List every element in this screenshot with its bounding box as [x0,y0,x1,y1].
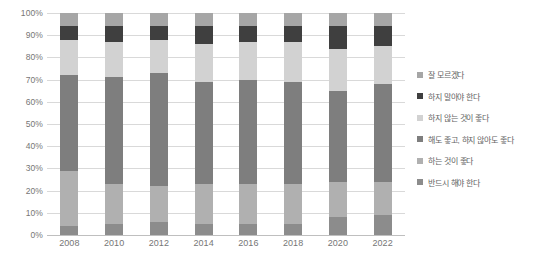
bar-segment[interactable] [195,44,213,82]
bar-segment[interactable] [60,26,78,39]
legend-item-label: 하지 않는 것이 좋다 [428,112,489,123]
bar-segment[interactable] [374,26,392,46]
bar-segment[interactable] [374,182,392,215]
gridline-0 [47,235,405,236]
bar-segment[interactable] [284,13,302,26]
x-axis-tick-2018: 2018 [283,238,303,248]
bar-segment[interactable] [150,26,168,39]
bar-segment[interactable] [374,84,392,182]
stacked-bar-chart: 0%10%20%30%40%50%60%70%80%90%100% 200820… [0,0,536,272]
legend-item-label: 반드시 해야 한다 [428,177,480,188]
y-axis-tick-90: 90% [0,30,43,40]
x-axis-tick-2020: 2020 [328,238,348,248]
bar-segment[interactable] [239,13,257,26]
y-axis-tick-50: 50% [0,119,43,129]
bar-segment[interactable] [284,184,302,224]
bar-segment[interactable] [60,40,78,76]
bar-segment[interactable] [60,13,78,26]
y-axis-tick-100: 100% [0,8,43,18]
x-axis-tick-2010: 2010 [104,238,124,248]
legend-swatch-icon [417,115,423,121]
bar-segment[interactable] [284,82,302,184]
bar-segment[interactable] [150,186,168,222]
bar-column-2016[interactable] [239,13,257,235]
bar-column-2014[interactable] [195,13,213,235]
bars-layer [47,13,405,235]
bar-segment[interactable] [374,46,392,84]
bar-column-2018[interactable] [284,13,302,235]
bar-segment[interactable] [329,49,347,91]
legend-item[interactable]: 잘 모르겠다 [417,64,536,86]
bar-segment[interactable] [60,226,78,235]
legend-swatch-icon [417,93,423,99]
y-axis-tick-80: 80% [0,52,43,62]
legend-swatch-icon [417,158,423,164]
bar-column-2022[interactable] [374,13,392,235]
legend-item-label: 하는 것이 좋다 [428,155,473,166]
bar-segment[interactable] [374,13,392,26]
legend-swatch-icon [417,179,423,185]
bar-segment[interactable] [239,26,257,42]
bar-column-2010[interactable] [105,13,123,235]
bar-segment[interactable] [239,224,257,235]
y-axis-tick-labels: 0%10%20%30%40%50%60%70%80%90%100% [0,13,43,235]
y-axis-tick-30: 30% [0,163,43,173]
y-axis-tick-20: 20% [0,186,43,196]
bar-segment[interactable] [239,42,257,80]
legend-item-label: 해도 좋고, 하지 않아도 좋다 [428,134,514,145]
y-axis-tick-70: 70% [0,75,43,85]
legend-item[interactable]: 하지 말아야 한다 [417,86,536,108]
legend-item[interactable]: 하지 않는 것이 좋다 [417,107,536,129]
bar-segment[interactable] [105,13,123,26]
y-axis-tick-10: 10% [0,208,43,218]
bar-segment[interactable] [239,184,257,224]
bar-segment[interactable] [195,184,213,224]
bar-segment[interactable] [150,13,168,26]
bar-segment[interactable] [284,26,302,42]
legend-item[interactable]: 하는 것이 좋다 [417,150,536,172]
bar-segment[interactable] [284,42,302,82]
bar-segment[interactable] [60,75,78,170]
bar-segment[interactable] [195,13,213,26]
y-axis-tick-0: 0% [0,230,43,240]
bar-segment[interactable] [329,91,347,182]
bar-segment[interactable] [195,26,213,44]
bar-segment[interactable] [105,224,123,235]
legend-swatch-icon [417,72,423,78]
plot-area [47,13,405,235]
x-axis-tick-2008: 2008 [59,238,79,248]
legend-item[interactable]: 반드시 해야 한다 [417,172,536,194]
bar-segment[interactable] [105,77,123,184]
legend-swatch-icon [417,136,423,142]
bar-segment[interactable] [329,217,347,235]
x-axis-tick-2022: 2022 [373,238,393,248]
x-axis-tick-2014: 2014 [194,238,214,248]
bar-segment[interactable] [150,73,168,186]
bar-segment[interactable] [329,182,347,218]
bar-segment[interactable] [284,224,302,235]
bar-segment[interactable] [329,26,347,48]
legend-item-label: 잘 모르겠다 [428,69,464,80]
bar-segment[interactable] [374,215,392,235]
bar-column-2008[interactable] [60,13,78,235]
bar-column-2012[interactable] [150,13,168,235]
bar-segment[interactable] [239,80,257,184]
bar-segment[interactable] [195,224,213,235]
bar-segment[interactable] [105,26,123,42]
bar-segment[interactable] [150,222,168,235]
x-axis-tick-2012: 2012 [149,238,169,248]
x-axis-tick-2016: 2016 [238,238,258,248]
y-axis-tick-40: 40% [0,141,43,151]
bar-segment[interactable] [60,171,78,227]
bar-column-2020[interactable] [329,13,347,235]
y-axis-tick-60: 60% [0,97,43,107]
bar-segment[interactable] [150,40,168,73]
bar-segment[interactable] [329,13,347,26]
chart-legend: 잘 모르겠다하지 말아야 한다하지 않는 것이 좋다해도 좋고, 하지 않아도 … [417,64,536,193]
bar-segment[interactable] [105,42,123,78]
legend-item-label: 하지 말아야 한다 [428,91,480,102]
x-axis-tick-labels: 20082010201220142016201820202022 [47,238,405,256]
bar-segment[interactable] [195,82,213,184]
bar-segment[interactable] [105,184,123,224]
legend-item[interactable]: 해도 좋고, 하지 않아도 좋다 [417,129,536,151]
